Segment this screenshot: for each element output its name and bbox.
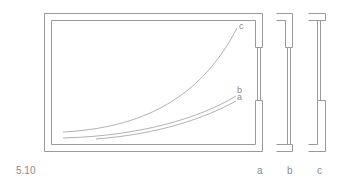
wall-section-b bbox=[277, 14, 293, 152]
section-label-b: b bbox=[287, 166, 293, 176]
section-label-a: a bbox=[257, 166, 263, 176]
curve-label-c: c bbox=[239, 22, 244, 31]
wall-section-c bbox=[309, 14, 326, 152]
curve-c bbox=[63, 28, 237, 132]
curve-label-a: a bbox=[237, 93, 242, 102]
section-label-c: c bbox=[317, 166, 322, 176]
figure-number: 5.10 bbox=[16, 166, 35, 176]
room-section-diagram bbox=[0, 0, 346, 190]
